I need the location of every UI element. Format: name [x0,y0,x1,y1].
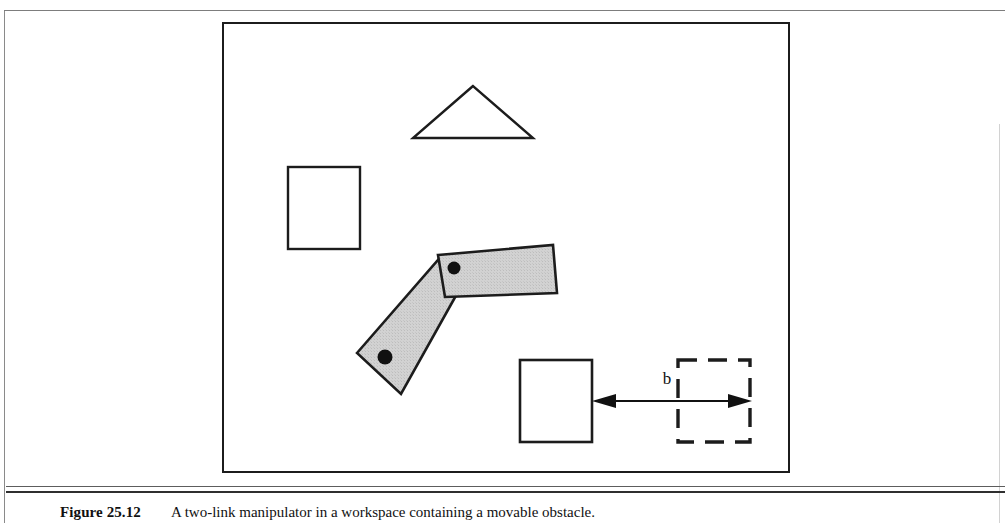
figure-page: b Figure 25.12A two-link manipulator in … [0,0,1005,523]
figure-bounding-box: b [222,22,790,473]
displacement-label-b: b [663,369,672,388]
page-frame-left-edge [4,10,5,523]
displacement-arrowhead-left [592,394,616,408]
joint-elbow [448,262,461,275]
page-rule-lower [6,491,1005,493]
figure-caption: Figure 25.12A two-link manipulator in a … [60,503,990,522]
triangle-obstacle [413,86,533,138]
square-obstacle-upper-left [288,167,360,249]
page-frame-right-edge [999,124,1000,523]
page-rule-upper [6,486,1005,487]
manipulator-workspace-diagram: b [224,24,788,471]
figure-number-label: Figure 25.12 [60,504,141,520]
page-frame-top-edge [4,10,1005,11]
joint-base [378,350,393,365]
figure-caption-text: A two-link manipulator in a workspace co… [171,504,595,520]
square-obstacle-movable-current [520,360,592,442]
